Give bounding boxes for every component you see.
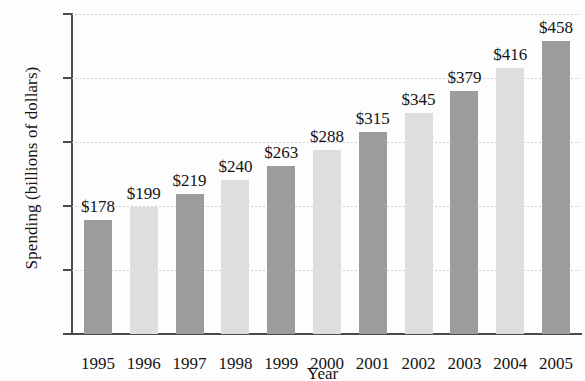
bar[interactable] [221, 180, 249, 334]
bar-value-label: $458 [526, 18, 585, 38]
y-tick-mark [63, 13, 72, 15]
bar[interactable] [176, 194, 204, 334]
bar[interactable] [130, 207, 158, 334]
bar[interactable] [496, 68, 524, 334]
bar[interactable] [84, 220, 112, 334]
bar[interactable] [313, 150, 341, 334]
y-tick-mark [63, 333, 72, 335]
y-tick-mark [63, 77, 72, 79]
gridline [71, 14, 580, 15]
bar-chart: Spending (billions of dollars) 010020030… [0, 0, 585, 381]
bar[interactable] [542, 41, 570, 334]
bar-value-label: $379 [434, 68, 494, 88]
bar[interactable] [359, 132, 387, 334]
plot-area: 0100200300400$500$1781995$1991996$219199… [71, 14, 580, 334]
bar-value-label: $288 [297, 127, 357, 147]
y-axis-title: Spending (billions of dollars) [22, 8, 42, 328]
x-axis-title: Year [0, 364, 585, 381]
bar[interactable] [267, 166, 295, 334]
bar[interactable] [405, 113, 433, 334]
bar-value-label: $416 [480, 45, 540, 65]
y-tick-mark [63, 269, 72, 271]
bar-value-label: $315 [343, 109, 403, 129]
y-tick-mark [63, 141, 72, 143]
bar[interactable] [450, 91, 478, 334]
bar-value-label: $345 [389, 90, 449, 110]
